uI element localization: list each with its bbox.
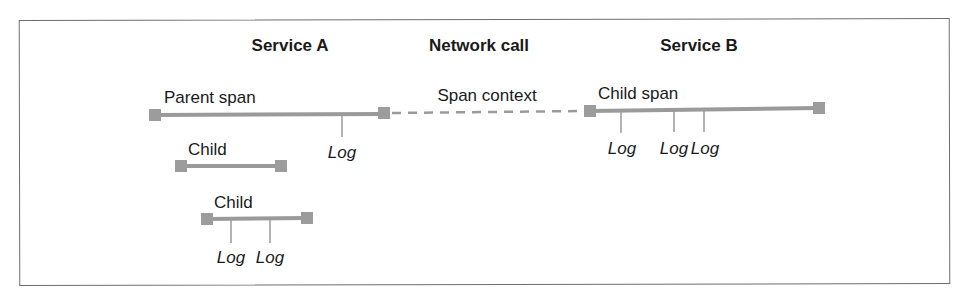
child-span-1: Child xyxy=(175,140,287,172)
span-start-marker xyxy=(175,160,187,172)
parent-span: Parent span Log xyxy=(149,88,390,162)
span-start-marker xyxy=(149,109,161,121)
log-label: Log xyxy=(691,139,720,158)
child-span-service-b: Child span Log Log Log xyxy=(584,84,825,158)
child-span-2: Child Log Log xyxy=(201,193,313,267)
network-connection: Span context xyxy=(392,86,584,113)
log-label: Log xyxy=(217,248,246,267)
log-label: Log xyxy=(328,143,357,162)
trace-diagram: Service A Network call Service B Parent … xyxy=(0,0,971,293)
child-span-label: Child span xyxy=(598,84,678,103)
header-network-call: Network call xyxy=(429,36,529,55)
child-1-label: Child xyxy=(188,140,227,159)
child-2-bar xyxy=(207,218,307,219)
span-start-marker xyxy=(201,213,213,225)
header-service-a: Service A xyxy=(252,36,329,55)
span-end-marker xyxy=(378,107,390,119)
log-label: Log xyxy=(660,139,689,158)
span-start-marker xyxy=(584,105,596,117)
child-2-label: Child xyxy=(214,193,253,212)
parent-span-label: Parent span xyxy=(164,88,256,107)
header-service-b: Service B xyxy=(660,36,738,55)
span-end-marker xyxy=(813,102,825,114)
parent-span-bar xyxy=(155,114,384,115)
log-label: Log xyxy=(608,139,637,158)
span-end-marker xyxy=(301,212,313,224)
span-context-label: Span context xyxy=(437,86,537,105)
log-label: Log xyxy=(256,248,285,267)
span-end-marker xyxy=(275,160,287,172)
span-context-dashed-line xyxy=(392,111,584,113)
